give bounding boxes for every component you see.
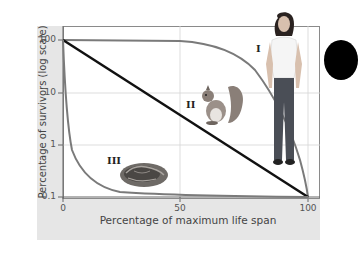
- curve-label-type-3: III: [107, 155, 121, 166]
- curve-label-type-1: I: [256, 43, 261, 54]
- squirrel-image: [202, 85, 243, 125]
- curve-label-type-2: II: [186, 99, 195, 110]
- x-tick-100: 100: [293, 203, 323, 213]
- y-axis-label: Percentage of survivors (log scale): [37, 25, 48, 198]
- x-tick-50: 50: [165, 203, 195, 213]
- x-tick-0: 0: [48, 203, 78, 213]
- woman-image: [266, 12, 302, 165]
- x-axis-label: Percentage of maximum life span: [63, 214, 313, 226]
- oyster-image: [120, 163, 168, 187]
- page-tab-marker: [324, 40, 358, 80]
